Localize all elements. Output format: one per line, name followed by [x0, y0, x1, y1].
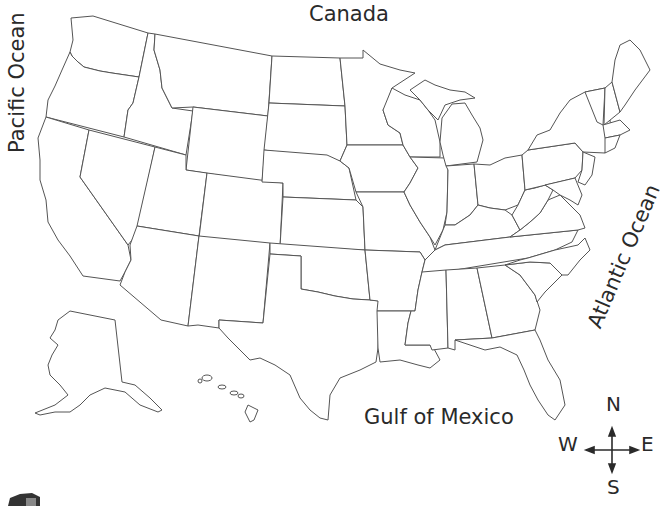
state-kansas	[280, 197, 365, 250]
state-hawaii-isle-3	[218, 385, 226, 389]
state-north-dakota	[269, 56, 345, 106]
state-michigan-lower	[440, 103, 483, 166]
compass-arrows	[586, 428, 638, 472]
state-alaska	[35, 311, 162, 415]
state-hawaii-isle-4	[230, 391, 238, 395]
state-montana	[154, 34, 272, 116]
compass-north-label: N	[606, 392, 621, 416]
compass-west-label: W	[558, 432, 578, 456]
label-pacific-ocean: Pacific Ocean	[5, 35, 29, 153]
state-ohio	[474, 155, 525, 210]
state-hawaii-main	[245, 405, 258, 422]
compass-east-label: E	[641, 432, 654, 456]
state-arizona	[120, 226, 199, 326]
state-hawaii-isle-1	[202, 375, 212, 381]
state-connecticut	[605, 135, 620, 153]
state-hawaii-isle-5	[238, 394, 244, 398]
logo-icon	[6, 488, 42, 506]
state-wyoming	[186, 107, 268, 182]
state-new-mexico	[188, 236, 270, 328]
label-gulf-of-mexico: Gulf of Mexico	[364, 405, 514, 429]
compass-south-label: S	[607, 475, 620, 499]
label-canada: Canada	[309, 2, 389, 26]
state-hawaii-isle-2	[198, 379, 202, 383]
state-colorado	[199, 173, 283, 247]
state-maine	[612, 40, 650, 112]
